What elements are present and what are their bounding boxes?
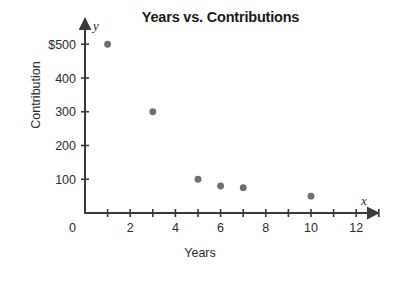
data-point-1 [149,108,156,115]
origin-label: 0 [69,221,76,235]
data-point-0 [104,41,111,48]
y-tick-label-400: 400 [55,72,76,86]
x-tick-label-6: 6 [217,221,224,235]
data-point-4 [240,184,247,191]
scatter-chart: Years vs. Contributions Contribution Yea… [0,0,397,284]
plot-area: 24681012$5004003002001000 yx [0,0,397,284]
x-tick-label-8: 8 [262,221,269,235]
tick-labels-group: 24681012$5004003002001000 [48,38,363,235]
data-point-5 [308,193,315,200]
ticks-group [81,44,379,217]
x-tick-label-2: 2 [127,221,134,235]
data-point-2 [195,176,202,183]
x-tick-label-4: 4 [172,221,179,235]
x-tick-label-12: 12 [349,221,363,235]
x-tick-label-10: 10 [304,221,318,235]
axes-group [85,28,369,213]
y-tick-label-500: $500 [48,38,76,52]
y-axis-variable: y [91,18,99,33]
y-tick-label-100: 100 [55,173,76,187]
data-point-3 [217,183,224,190]
axis-variable-labels: yx [91,18,367,208]
y-tick-label-300: 300 [55,105,76,119]
y-tick-label-200: 200 [55,139,76,153]
x-axis-variable: x [360,193,367,208]
data-points-group [104,41,314,200]
